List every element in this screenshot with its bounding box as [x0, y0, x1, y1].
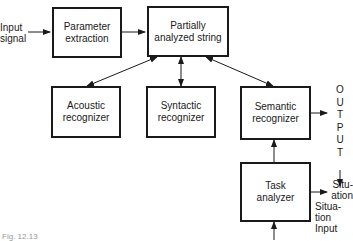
- situation-out-line1: Situ-: [329, 179, 353, 190]
- input-signal-label: Input signal: [0, 22, 26, 44]
- edge-partial-acoustic: [87, 57, 157, 86]
- node-parameter-extraction: Parameter extraction: [52, 7, 122, 58]
- situation-out-line2: ation: [329, 190, 353, 201]
- edge-partial-semantic: [206, 57, 273, 86]
- node-label: Parameter: [64, 21, 111, 33]
- output-letter: P: [334, 122, 346, 135]
- output-letter: O: [334, 84, 346, 97]
- node-partially-analyzed-string: Partially analyzed string: [147, 6, 229, 57]
- node-label: extraction: [64, 33, 111, 45]
- output-letter: T: [334, 109, 346, 122]
- node-label: recognizer: [252, 113, 299, 125]
- node-label: recognizer: [158, 112, 205, 124]
- node-label: Task: [257, 180, 295, 192]
- node-label: Syntactic: [158, 100, 205, 112]
- node-semantic-recognizer: Semantic recognizer: [240, 86, 311, 140]
- node-acoustic-recognizer: Acoustic recognizer: [51, 86, 121, 138]
- figure-caption: Fig. 12.13: [2, 232, 38, 241]
- node-label: Partially: [154, 20, 221, 32]
- output-letter: T: [334, 147, 346, 160]
- situation-output-label: Situ- ation: [329, 179, 353, 201]
- node-label: Acoustic: [63, 100, 110, 112]
- node-syntactic-recognizer: Syntactic recognizer: [146, 86, 216, 138]
- output-letter: U: [334, 97, 346, 110]
- node-label: analyzer: [257, 192, 295, 204]
- output-label: O U T P U T: [334, 84, 346, 159]
- node-label: recognizer: [63, 112, 110, 124]
- situation-in-line3: Input: [315, 223, 341, 234]
- input-label-line2: signal: [0, 33, 26, 44]
- input-label-line1: Input: [0, 22, 26, 33]
- node-label: Semantic: [252, 101, 299, 113]
- situation-in-line1: Situa-: [315, 201, 341, 212]
- node-label: analyzed string: [154, 32, 221, 44]
- output-letter: U: [334, 134, 346, 147]
- situation-input-label: Situa- tion Input: [315, 201, 341, 234]
- situation-in-line2: tion: [315, 212, 341, 223]
- node-task-analyzer: Task analyzer: [240, 162, 311, 222]
